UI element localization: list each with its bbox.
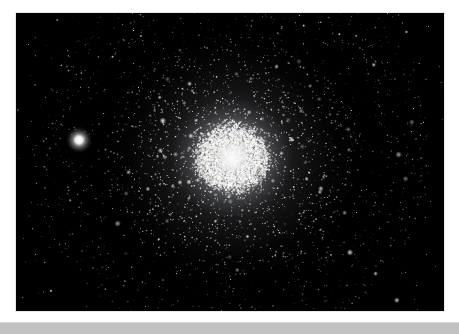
astronomy-photo-frame: [15, 12, 445, 312]
bright-foreground-star: [16, 13, 444, 311]
page-root: [0, 0, 459, 334]
bottom-strip: [0, 322, 459, 334]
astronomy-photo: [16, 13, 444, 311]
